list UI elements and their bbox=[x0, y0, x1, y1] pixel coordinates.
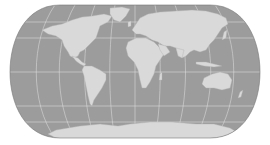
world-map bbox=[0, 0, 270, 145]
british-isles bbox=[128, 21, 131, 27]
